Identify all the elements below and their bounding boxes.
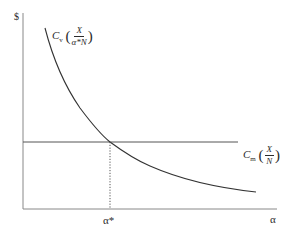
cm-open-paren: (	[259, 147, 264, 163]
cv-subscript: v	[59, 36, 63, 44]
cm-numerator: X	[265, 145, 275, 156]
cv-curve	[45, 28, 256, 192]
alpha-star-label: α*	[103, 215, 114, 226]
cv-close-paren: )	[88, 28, 93, 44]
cv-fraction: Xα*N	[72, 26, 87, 47]
cv-numerator: X	[74, 26, 84, 37]
cm-fraction: XN	[265, 145, 275, 166]
cm-line-label: Cm (XN)	[243, 145, 280, 166]
cv-open-paren: (	[66, 28, 71, 44]
cv-curve-label: Cv (Xα*N)	[52, 26, 93, 47]
y-axis-label: $	[14, 12, 19, 22]
cm-close-paren: )	[275, 147, 280, 163]
chart-canvas	[0, 0, 293, 234]
cv-denominator: α*N	[72, 37, 87, 47]
cm-subscript: m	[250, 155, 255, 163]
x-axis-label: α	[270, 214, 276, 225]
cm-denominator: N	[266, 156, 272, 166]
alpha-star-text: α*	[103, 214, 114, 226]
